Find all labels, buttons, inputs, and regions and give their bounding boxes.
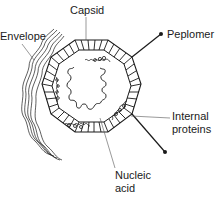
label-capsid: Capsid [70,4,104,16]
peplomer-tip-top [159,32,163,36]
label-proteins: proteins [172,123,211,135]
label-nucleic: Nucleic [115,169,151,181]
nucleic-acid [67,67,106,109]
peplomer-spike-top [132,34,161,57]
virus-diagram: Capsid Envelope Peplomer Internal protei… [0,0,221,198]
internal-proteins-leader [131,116,170,118]
label-peplomer: Peplomer [167,28,214,40]
envelope-layers [22,29,64,160]
label-envelope: Envelope [0,30,46,42]
peplomer-spike-bottom [132,114,165,152]
label-acid: acid [115,182,135,194]
label-internal: Internal [172,110,209,122]
envelope-leader [22,44,34,60]
peplomer-tip-bottom [163,150,167,154]
